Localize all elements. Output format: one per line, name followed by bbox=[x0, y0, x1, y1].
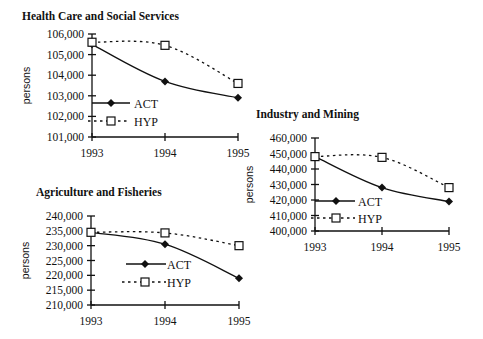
act-marker-diamond-icon bbox=[378, 184, 386, 192]
chart-title: Agriculture and Fisheries bbox=[36, 186, 162, 199]
hyp-marker-square-icon bbox=[311, 153, 319, 161]
y-tick-label: 400,000 bbox=[270, 225, 308, 238]
y-tick-label: 101,000 bbox=[47, 131, 85, 144]
legend-hyp-label: HYP bbox=[134, 115, 158, 129]
hyp-marker-square-icon bbox=[235, 242, 243, 250]
legend-act-label: ACT bbox=[358, 195, 383, 209]
chart-agriculture: Agriculture and Fisheries210,000215,0002… bbox=[19, 186, 251, 327]
legend: ACTHYP bbox=[88, 97, 159, 129]
x-tick-label: 1993 bbox=[81, 147, 104, 159]
y-axis-label: persons bbox=[20, 67, 32, 104]
legend: ACTHYP bbox=[311, 195, 383, 226]
y-axis-label: persons bbox=[243, 166, 255, 203]
legend-hyp-square-icon bbox=[141, 278, 149, 286]
act-marker-diamond-icon bbox=[161, 77, 169, 85]
legend-item-hyp: HYP bbox=[122, 276, 191, 290]
legend-item-act: ACT bbox=[126, 258, 192, 272]
act-marker-diamond-icon bbox=[445, 198, 453, 206]
legend-act-diamond-icon bbox=[107, 99, 115, 107]
y-tick-label: 235,000 bbox=[46, 225, 84, 238]
y-tick-label: 410,000 bbox=[270, 210, 308, 223]
y-axis-label: persons bbox=[19, 242, 31, 279]
x-tick-label: 1994 bbox=[154, 147, 177, 159]
legend-hyp-label: HYP bbox=[358, 212, 382, 226]
chart-industry: Industry and Mining400,000410,000420,000… bbox=[243, 108, 461, 253]
hyp-marker-square-icon bbox=[161, 229, 169, 237]
legend-item-act: ACT bbox=[92, 97, 159, 111]
chart-figure: Health Care and Social Services101,00010… bbox=[0, 0, 483, 339]
y-tick-label: 430,000 bbox=[270, 179, 308, 192]
legend-act-diamond-icon bbox=[332, 197, 340, 205]
legend-hyp-label: HYP bbox=[167, 276, 191, 290]
chart-title: Health Care and Social Services bbox=[22, 10, 179, 22]
act-marker-diamond-icon bbox=[161, 240, 169, 248]
x-tick-label: 1995 bbox=[438, 241, 461, 253]
hyp-marker-square-icon bbox=[234, 79, 242, 87]
act-line bbox=[315, 157, 449, 202]
legend-item-hyp: HYP bbox=[311, 212, 382, 226]
act-marker-diamond-icon bbox=[235, 274, 243, 282]
hyp-marker-square-icon bbox=[161, 41, 169, 49]
chart-health: Health Care and Social Services101,00010… bbox=[20, 10, 250, 159]
y-tick-label: 106,000 bbox=[47, 28, 85, 41]
legend-hyp-square-icon bbox=[107, 117, 115, 125]
x-tick-label: 1995 bbox=[227, 147, 250, 159]
y-tick-label: 102,000 bbox=[47, 110, 85, 123]
y-tick-label: 420,000 bbox=[270, 194, 308, 207]
legend-item-hyp: HYP bbox=[88, 115, 158, 129]
y-tick-label: 103,000 bbox=[47, 90, 85, 103]
legend-act-label: ACT bbox=[167, 258, 192, 272]
y-tick-label: 225,000 bbox=[46, 255, 84, 268]
x-tick-label: 1993 bbox=[304, 241, 327, 253]
legend-act-diamond-icon bbox=[141, 260, 149, 268]
legend-item-act: ACT bbox=[315, 195, 383, 209]
legend-act-label: ACT bbox=[134, 97, 159, 111]
hyp-marker-square-icon bbox=[445, 184, 453, 192]
y-tick-label: 450,000 bbox=[270, 148, 308, 161]
y-tick-label: 104,000 bbox=[47, 69, 85, 82]
act-line bbox=[92, 44, 238, 98]
act-marker-diamond-icon bbox=[234, 94, 242, 102]
legend-hyp-square-icon bbox=[332, 214, 340, 222]
y-tick-label: 240,000 bbox=[46, 210, 84, 223]
x-tick-label: 1994 bbox=[371, 241, 394, 253]
act-line bbox=[91, 232, 239, 278]
y-tick-label: 105,000 bbox=[47, 49, 85, 62]
y-tick-label: 230,000 bbox=[46, 240, 84, 253]
y-tick-label: 210,000 bbox=[46, 299, 84, 312]
y-tick-label: 215,000 bbox=[46, 284, 84, 297]
chart-title: Industry and Mining bbox=[256, 108, 359, 121]
x-tick-label: 1994 bbox=[154, 315, 177, 327]
x-tick-label: 1993 bbox=[80, 315, 103, 327]
y-tick-label: 460,000 bbox=[270, 132, 308, 145]
hyp-marker-square-icon bbox=[378, 153, 386, 161]
y-tick-label: 440,000 bbox=[270, 163, 308, 176]
legend: ACTHYP bbox=[122, 258, 192, 290]
x-tick-label: 1995 bbox=[228, 315, 251, 327]
y-tick-label: 220,000 bbox=[46, 269, 84, 282]
hyp-marker-square-icon bbox=[87, 228, 95, 236]
hyp-marker-square-icon bbox=[88, 38, 96, 46]
